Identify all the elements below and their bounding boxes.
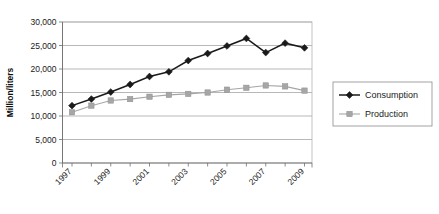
y-tick-label: 0 (52, 158, 57, 168)
data-point-marker (244, 85, 249, 90)
data-point-marker (107, 89, 114, 96)
data-point-marker (282, 84, 287, 89)
series-production (69, 83, 307, 115)
x-tick-label: 2005 (208, 166, 229, 187)
series-line (72, 85, 305, 112)
data-point-marker (205, 90, 210, 95)
y-axis-title: Million/liters (5, 67, 15, 117)
chart-legend: ConsumptionProduction (333, 82, 432, 126)
data-point-marker (185, 57, 192, 64)
data-point-marker (146, 73, 153, 80)
x-tick-label: 2009 (285, 166, 306, 187)
x-tick-labels: 1997199920012003200520072009 (53, 166, 306, 187)
data-point-marker (263, 83, 268, 88)
data-point-marker (127, 96, 132, 101)
x-tick-label: 2007 (247, 166, 268, 187)
legend-label: Production (365, 109, 408, 119)
chart-container: 05,00010,00015,00020,00025,00030,000 199… (0, 0, 439, 214)
data-point-marker (147, 94, 152, 99)
y-tick-label: 25,000 (31, 41, 57, 51)
data-point-marker (69, 110, 74, 115)
y-tick-label: 20,000 (31, 64, 57, 74)
data-point-marker (69, 102, 76, 109)
legend-box (333, 82, 432, 126)
data-point-marker (186, 91, 191, 96)
x-tick-marks (63, 163, 313, 168)
data-point-marker (108, 98, 113, 103)
y-tick-label: 30,000 (31, 17, 57, 27)
gridlines-group (63, 22, 313, 140)
y-tick-label: 10,000 (31, 111, 57, 121)
x-tick-label: 2001 (130, 166, 151, 187)
y-tick-label: 5,000 (35, 135, 57, 145)
x-tick-label: 1999 (92, 166, 113, 187)
data-point-marker (224, 87, 229, 92)
legend-label: Consumption (365, 90, 418, 100)
y-tick-labels: 05,00010,00015,00020,00025,00030,000 (31, 17, 57, 168)
series-consumption (69, 35, 308, 109)
data-point-marker (88, 96, 95, 103)
x-tick-label: 2003 (169, 166, 190, 187)
data-series-layer (69, 35, 308, 115)
y-tick-label: 15,000 (31, 88, 57, 98)
y-tick-marks (59, 22, 63, 163)
data-point-marker (204, 50, 211, 57)
legend-marker (347, 111, 352, 116)
line-chart: 05,00010,00015,00020,00025,00030,000 199… (0, 0, 439, 214)
data-point-marker (165, 68, 172, 75)
data-point-marker (89, 103, 94, 108)
data-point-marker (302, 88, 307, 93)
data-point-marker (127, 81, 134, 88)
data-point-marker (166, 92, 171, 97)
data-point-marker (224, 43, 231, 50)
x-tick-label: 1997 (53, 166, 74, 187)
